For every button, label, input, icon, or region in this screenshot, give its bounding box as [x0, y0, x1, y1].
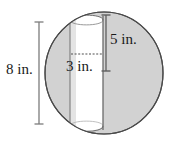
height-label: 5 in.: [110, 32, 137, 47]
sphere-shape: [45, 12, 163, 134]
diameter-label: 8 in.: [6, 62, 33, 77]
radius-label: 3 in.: [66, 59, 93, 74]
diameter-dimension-line: [35, 22, 44, 124]
geometry-figure: 8 in. 5 in. 3 in.: [0, 0, 169, 141]
